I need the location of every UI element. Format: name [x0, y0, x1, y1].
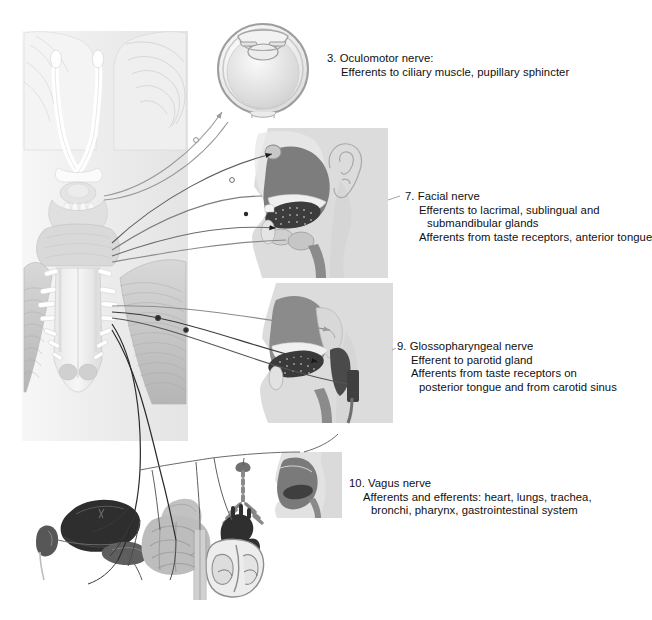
label-glossopharyngeal-line-3: posterior tongue and from carotid sinus — [397, 381, 617, 395]
label-vagus-line-1: Afferents and efferents: heart, lungs, t… — [349, 491, 592, 505]
label-vagus: 10. Vagus nerve Afferents and efferents:… — [349, 477, 592, 518]
heart — [194, 506, 264, 600]
label-facial: 7. Facial nerve Efferents to lacrimal, s… — [405, 190, 652, 244]
label-glossopharyngeal: 9. Glossopharyngeal nerve Efferent to pa… — [397, 340, 617, 394]
label-glossopharyngeal-line-1: Efferent to parotid gland — [397, 354, 617, 368]
optic-nerve-stump — [250, 112, 276, 117]
label-oculomotor: 3. Oculomotor nerve: Efferents to ciliar… — [327, 52, 569, 79]
label-glossopharyngeal-line-0: 9. Glossopharyngeal nerve — [397, 340, 617, 354]
brainstem-ventral-view — [22, 31, 188, 441]
label-facial-line-2: submandibular glands — [405, 217, 652, 231]
label-vagus-line-0: 10. Vagus nerve — [349, 477, 592, 491]
eye-cross-section — [218, 24, 308, 118]
pharynx-sagittal-small — [272, 452, 342, 518]
head-sagittal-facial — [248, 128, 388, 278]
kidney — [36, 526, 58, 580]
label-glossopharyngeal-line-2: Afferents from taste receptors on — [397, 367, 617, 381]
label-facial-line-1: Efferents to lacrimal, sublingual and — [405, 204, 652, 218]
carotid-sinus — [347, 370, 359, 402]
label-oculomotor-line-0: 3. Oculomotor nerve: — [327, 52, 569, 66]
head-sagittal-glosso — [258, 283, 393, 423]
label-facial-line-3: Afferents from taste receptors, anterior… — [405, 231, 652, 245]
lens — [248, 44, 278, 60]
medulla-pyramids — [54, 268, 102, 392]
label-vagus-line-2: bronchi, pharynx, gastrointestinal syste… — [349, 504, 592, 518]
label-facial-line-0: 7. Facial nerve — [405, 190, 652, 204]
label-oculomotor-line-1: Efferents to ciliary muscle, pupillary s… — [327, 66, 569, 80]
